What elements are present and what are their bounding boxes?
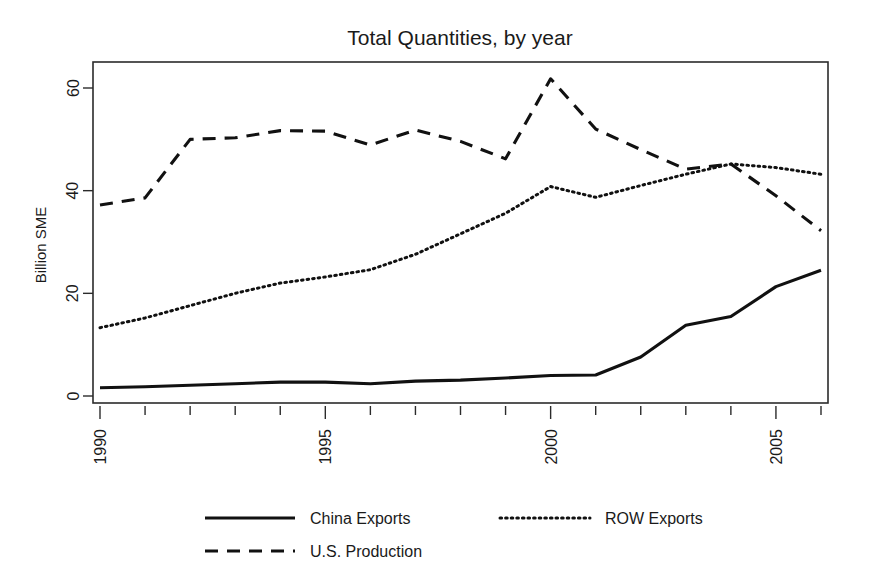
series-line-u-s-production (100, 79, 821, 231)
y-tick-label: 40 (65, 182, 82, 200)
y-tick-label: 0 (65, 391, 82, 400)
x-axis-ticks: 1990199520002005 (92, 406, 821, 465)
x-tick-label: 1995 (317, 429, 334, 465)
chart-legend: China ExportsROW ExportsU.S. Production (205, 510, 703, 560)
legend-u-s-production-label: U.S. Production (310, 543, 422, 560)
legend-china-exports-label: China Exports (310, 510, 411, 527)
y-axis-ticks: 0204060 (65, 79, 94, 400)
series-group (100, 79, 821, 388)
legend-row-exports-label: ROW Exports (605, 510, 703, 527)
x-tick-label: 1990 (92, 429, 109, 465)
chart-figure: Total Quantities, by year Billion SME 02… (0, 0, 871, 572)
x-tick-label: 2005 (768, 429, 785, 465)
y-axis-title: Billion SME (32, 207, 49, 284)
chart-title: Total Quantities, by year (347, 26, 572, 49)
series-line-row-exports (100, 164, 821, 328)
y-tick-label: 20 (65, 284, 82, 302)
line-chart: Total Quantities, by year Billion SME 02… (0, 0, 871, 572)
series-line-china-exports (100, 270, 821, 388)
y-tick-label: 60 (65, 79, 82, 97)
x-tick-label: 2000 (543, 429, 560, 465)
